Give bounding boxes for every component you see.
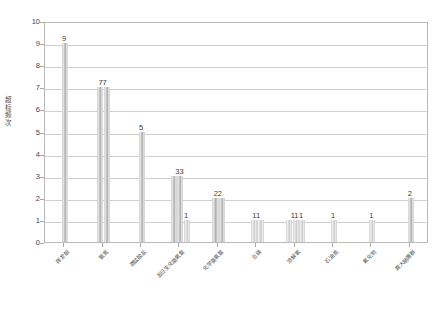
- bar: [257, 220, 263, 242]
- x-tick-mark: [178, 243, 179, 247]
- x-tick-mark: [370, 243, 371, 247]
- bar-value-label: 77: [89, 79, 117, 87]
- x-tick-mark: [63, 243, 64, 247]
- x-tick-mark: [140, 243, 141, 247]
- bar: [293, 220, 299, 242]
- bar-value-label: 11: [242, 212, 270, 220]
- x-tick-label: 五日生化需氧量: [156, 249, 186, 279]
- x-tick-mark: [217, 243, 218, 247]
- y-tick-label: 2: [6, 195, 40, 203]
- x-tick-mark: [294, 243, 295, 247]
- x-tick-label: 高锰酸盐: [128, 249, 147, 268]
- x-tick-label: 挥发酚: [55, 249, 70, 264]
- bar: [104, 87, 110, 242]
- bar: [331, 220, 337, 242]
- x-tick-label: 溶解氧: [286, 249, 301, 264]
- y-tick-label: 8: [6, 62, 40, 70]
- bar-value-label: 22: [204, 190, 232, 198]
- bar: [219, 198, 225, 242]
- y-tick-mark: [40, 243, 44, 244]
- bar: [62, 43, 68, 242]
- bar: [171, 176, 177, 242]
- bar-value-label: 5: [127, 124, 155, 132]
- y-tick-label: 10: [6, 18, 40, 26]
- bar-chart: 超标频次 012345678910 97753312211111112 挥发酚氨…: [0, 0, 439, 311]
- bar: [177, 176, 183, 242]
- bar: [286, 220, 292, 242]
- y-tick-label: 4: [6, 151, 40, 159]
- bar: [184, 220, 190, 242]
- x-tick-mark: [409, 243, 410, 247]
- bar: [299, 220, 305, 242]
- y-tick-label: 9: [6, 40, 40, 48]
- bars-layer: 97753312211111112: [45, 23, 427, 242]
- x-tick-mark: [255, 243, 256, 247]
- x-tick-label: 氨氮: [97, 249, 109, 261]
- bar: [369, 220, 375, 242]
- bar-value-label: 9: [50, 35, 78, 43]
- bar-value-label: 1: [176, 212, 196, 220]
- bar: [139, 132, 145, 243]
- x-tick-label: 氟化物: [362, 249, 377, 264]
- bar-value-label: 2: [396, 190, 424, 198]
- bar: [212, 198, 218, 242]
- plot-area: 97753312211111112: [44, 22, 428, 243]
- y-tick-label: 5: [6, 129, 40, 137]
- bar: [97, 87, 103, 242]
- y-axis: 012345678910: [0, 0, 40, 311]
- bar: [408, 198, 414, 242]
- x-tick-label: 化学需氧量: [201, 249, 224, 272]
- bar-value-label: 1: [357, 212, 385, 220]
- y-tick-label: 0: [6, 239, 40, 247]
- y-tick-label: 3: [6, 173, 40, 181]
- y-tick-label: 7: [6, 84, 40, 92]
- bar-value-label: 33: [165, 168, 193, 176]
- x-tick-label: 石油类: [324, 249, 339, 264]
- bar: [251, 220, 257, 242]
- x-tick-mark: [332, 243, 333, 247]
- bar-value-label: 1: [319, 212, 347, 220]
- y-tick-label: 6: [6, 106, 40, 114]
- x-tick-mark: [102, 243, 103, 247]
- bar-value-label: 1: [291, 212, 311, 220]
- x-tick-label: 总磷: [251, 249, 263, 261]
- x-tick-label: 粪大肠菌群: [393, 249, 416, 272]
- y-tick-label: 1: [6, 217, 40, 225]
